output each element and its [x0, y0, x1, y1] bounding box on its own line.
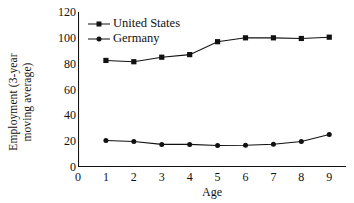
chart-figure: Employment (3-year moving average) 02040…	[0, 0, 354, 203]
data-point-marker	[299, 139, 304, 144]
x-axis-tick-labels: 0123456789	[78, 170, 346, 186]
data-point-marker	[159, 55, 164, 60]
y-tick-label: 100	[42, 32, 76, 44]
x-tick-label: 9	[317, 170, 341, 184]
x-tick-label: 2	[122, 170, 146, 184]
y-axis-title: Employment (3-year moving average)	[0, 0, 40, 203]
data-point-marker	[103, 58, 108, 63]
data-series-layer	[103, 35, 332, 148]
x-tick-label: 6	[234, 170, 258, 184]
data-point-marker	[327, 132, 332, 137]
y-tick-label: 60	[42, 84, 76, 96]
y-tick-label: 120	[42, 6, 76, 18]
data-point-marker	[131, 139, 136, 144]
y-tick-label: 20	[42, 135, 76, 147]
data-point-marker	[243, 143, 248, 148]
data-point-marker	[327, 35, 332, 40]
x-tick-label: 8	[289, 170, 313, 184]
data-point-marker	[271, 35, 276, 40]
y-axis-title-line1: Employment (3-year	[7, 53, 21, 150]
series-germany	[103, 132, 331, 148]
y-axis-title-line2: moving average)	[20, 53, 34, 150]
x-tick-label: 3	[150, 170, 174, 184]
data-point-marker	[131, 59, 136, 64]
legend-item-germany: Germany	[88, 31, 218, 46]
data-point-marker	[187, 142, 192, 147]
x-axis-title: Age	[78, 185, 346, 199]
x-tick-label: 7	[261, 170, 285, 184]
data-point-marker	[187, 52, 192, 57]
y-tick-label: 40	[42, 109, 76, 121]
legend-label-united-states: United States	[110, 17, 180, 30]
data-point-marker	[299, 36, 304, 41]
legend-item-united-states: United States	[88, 16, 218, 31]
data-point-marker	[159, 142, 164, 147]
x-tick-label: 5	[206, 170, 230, 184]
data-point-marker	[243, 35, 248, 40]
data-point-marker	[271, 142, 276, 147]
x-tick-label: 4	[178, 170, 202, 184]
chart-legend: United States Germany	[88, 16, 218, 46]
legend-marker-circle-icon	[88, 33, 110, 45]
data-point-marker	[103, 138, 108, 143]
data-point-marker	[215, 143, 220, 148]
x-tick-label: 0	[66, 170, 90, 184]
y-tick-label: 80	[42, 58, 76, 70]
legend-marker-square-icon	[88, 18, 110, 30]
legend-label-germany: Germany	[110, 32, 160, 45]
x-tick-label: 1	[94, 170, 118, 184]
